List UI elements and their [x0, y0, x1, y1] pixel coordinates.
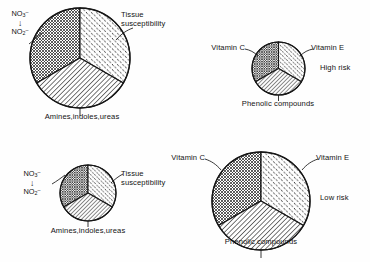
label-phenolic-bottom-right: Phenolic compounds — [211, 238, 311, 247]
label-low-risk: Low risk — [320, 194, 349, 203]
label-vitamin-e-bottom-right: Vitamin E — [316, 154, 349, 163]
nitrate-text: NO — [24, 169, 35, 178]
label-nitrate-nitrite-top-left: NO3– ↓ NO2– — [2, 10, 38, 36]
tissue-line-2: susceptibility — [121, 20, 165, 29]
label-vitamin-c-top-right: Vitamin C — [185, 44, 245, 53]
nitrate-text: NO — [12, 9, 23, 18]
label-tissue-susceptibility-bottom-left: Tissue susceptibility — [121, 170, 165, 188]
leader-line-nitrate-bottom — [52, 174, 66, 186]
label-phenolic-top-right: Phenolic compounds — [228, 100, 328, 109]
nitrite-text: NO — [12, 27, 23, 36]
label-amines-top-left: Amines,indoles,ureas — [30, 113, 134, 122]
nitrite-charge: – — [38, 187, 41, 193]
pie-chart-promoters-low-risk — [58, 163, 118, 223]
nitrate-charge: – — [26, 9, 29, 15]
label-nitrate-nitrite-bottom-left: NO3– ↓ NO2– — [14, 170, 50, 196]
label-vitamin-e-top-right: Vitamin E — [311, 44, 344, 53]
figure-canvas: NO3– ↓ NO2– Tissue susceptibility Amines… — [0, 0, 370, 262]
nitrate-charge: – — [38, 169, 41, 175]
label-amines-bottom-left: Amines,indoles,ureas — [36, 227, 140, 236]
nitrite-charge: – — [26, 27, 29, 33]
label-tissue-susceptibility-top-left: Tissue susceptibility — [121, 11, 165, 29]
leader-line-vitamin-c-bottom — [205, 158, 223, 172]
label-vitamin-c-bottom-right: Vitamin C — [145, 154, 205, 163]
pie-chart-promoters-high-risk — [28, 6, 132, 110]
nitrite-text: NO — [24, 187, 35, 196]
tissue-line-2: susceptibility — [121, 179, 165, 188]
label-high-risk: High risk — [320, 64, 350, 73]
leader-line-vitamin-c-top — [245, 48, 259, 58]
